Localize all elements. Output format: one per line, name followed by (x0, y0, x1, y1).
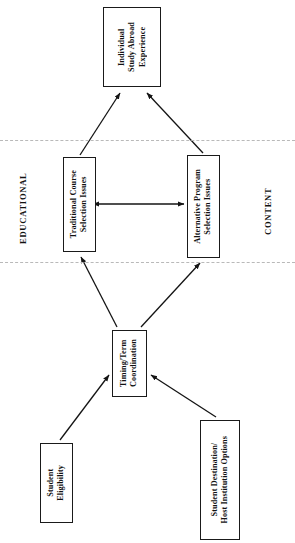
edge-timing-to-alternative (141, 263, 200, 327)
edge-traditional-to-experience (80, 93, 120, 155)
edge-alternative-to-experience (147, 93, 203, 153)
node-individual-study-abroad-experience: Individual Study Abroad Experience (103, 7, 161, 87)
diagram-canvas: EDUCATIONAL CONTENT Individual Study Abr… (0, 0, 295, 543)
node-alternative-program-selection-issues: Alternative Program Selection Issues (187, 155, 220, 258)
edge-eligibility-to-timing (60, 375, 109, 440)
node-traditional-course-selection-issues: Traditional Course Selection Issues (63, 157, 96, 252)
lower-divider (0, 262, 295, 263)
node-student-eligibility: Student Eligibility (40, 443, 73, 523)
node-label: Traditional Course Selection Issues (69, 170, 90, 238)
node-label: Student Destination/ Host Institution Op… (210, 436, 231, 523)
edge-timing-to-traditional (81, 257, 117, 327)
node-label: Alternative Program Selection Issues (193, 169, 214, 244)
node-label: Individual Study Abroad Experience (117, 22, 148, 72)
node-student-destination-host-institution-options: Student Destination/ Host Institution Op… (200, 420, 240, 540)
node-timing-term-coordination: Timing/Term Coordination (112, 330, 147, 397)
node-label: Timing/Term Coordination (119, 339, 140, 387)
edge-destination-to-timing (151, 375, 216, 417)
node-label: Student Eligibility (46, 465, 67, 501)
zone-label-content: CONTENT (263, 168, 273, 254)
zone-label-educational: EDUCATIONAL (18, 160, 28, 256)
upper-divider (0, 140, 295, 141)
